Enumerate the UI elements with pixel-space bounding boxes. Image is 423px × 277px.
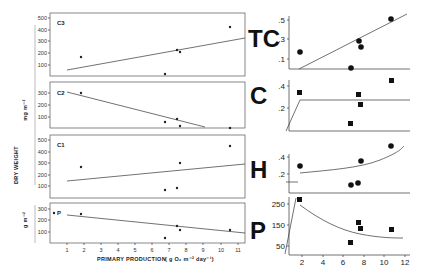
c1-tick-label: 300 bbox=[38, 160, 47, 166]
p-tick-label-right: 250 bbox=[272, 200, 286, 209]
left-tick-labels: 500 400 300 200 100 300 200 100 500 400 … bbox=[38, 15, 47, 235]
c2-point bbox=[179, 125, 181, 127]
c3-point bbox=[80, 56, 82, 58]
c3-point bbox=[229, 26, 231, 28]
h-point bbox=[297, 163, 303, 169]
p-tick-label-right: 150 bbox=[272, 221, 286, 230]
c1-tick-label: 500 bbox=[38, 137, 47, 143]
tc-point bbox=[388, 16, 394, 22]
c-point bbox=[358, 102, 363, 107]
c1-tick-label: 400 bbox=[38, 149, 47, 155]
c1-point bbox=[179, 162, 181, 164]
p-point-left bbox=[229, 229, 231, 231]
h-point bbox=[348, 182, 354, 188]
right-x-tick-label: 8 bbox=[362, 258, 367, 267]
p-point-left bbox=[176, 225, 178, 227]
x-tick-label: 10 bbox=[218, 247, 224, 253]
right-x-tick-label: 10 bbox=[380, 258, 389, 267]
c2-point bbox=[164, 121, 166, 123]
p-point-right bbox=[348, 240, 353, 245]
panel-c3-frame bbox=[50, 13, 245, 76]
p-point-left bbox=[179, 229, 181, 231]
tc-point bbox=[356, 38, 362, 44]
tc-point bbox=[297, 49, 303, 55]
h-point bbox=[355, 180, 361, 186]
right-x-tick-label: 12 bbox=[401, 258, 410, 267]
panel-c2-frame bbox=[50, 82, 245, 128]
tc-axes bbox=[289, 16, 410, 69]
p-tick-label: 200 bbox=[38, 217, 47, 223]
c3-tick-label: 100 bbox=[38, 62, 47, 68]
c2-fit-line bbox=[67, 92, 205, 127]
p-fit-curve bbox=[300, 205, 403, 238]
c-tick-label: .2 bbox=[278, 104, 285, 113]
p-point-left bbox=[53, 212, 55, 214]
c3-fit-line bbox=[67, 38, 245, 70]
c3-tick-label: 300 bbox=[38, 38, 47, 44]
y-label-g: g m⁻² bbox=[22, 212, 28, 228]
tc-fit-line bbox=[299, 14, 407, 69]
x-tick-label: 2 bbox=[82, 247, 85, 253]
p-point-left bbox=[164, 237, 166, 239]
big-label-tc: TC bbox=[248, 25, 280, 52]
p-tick-label: 300 bbox=[38, 206, 47, 212]
figure-canvas: 500 400 300 200 100 300 200 100 500 400 … bbox=[0, 0, 423, 277]
x-tick-label: 3 bbox=[99, 247, 102, 253]
c3-tick-label: 400 bbox=[38, 27, 47, 33]
c1-tick-label: 100 bbox=[38, 183, 47, 189]
p-fit-line-left bbox=[67, 215, 245, 233]
y-label-dry-weight: DRY WEIGHT bbox=[13, 146, 19, 184]
c1-point bbox=[80, 166, 82, 168]
x-tick-label: 8 bbox=[184, 247, 187, 253]
c2-tick-label: 300 bbox=[38, 90, 47, 96]
x-tick-label: 7 bbox=[167, 247, 170, 253]
c-point bbox=[348, 121, 353, 126]
c-fit-line bbox=[286, 100, 410, 131]
c2-tick-label: 100 bbox=[38, 114, 47, 120]
p-point-right bbox=[297, 197, 302, 202]
c-point bbox=[389, 78, 394, 83]
x-tick-label: 9 bbox=[201, 247, 204, 253]
p-axes-right bbox=[289, 197, 410, 255]
tc-tick-label: .3 bbox=[278, 35, 285, 44]
p-point-left bbox=[80, 213, 82, 215]
tc-tick-label: .1 bbox=[278, 55, 285, 64]
x-tick-label: 11 bbox=[235, 247, 241, 253]
x-axis-label: PRIMARY PRODUCTION bbox=[97, 256, 166, 262]
panel-label-c1: C1 bbox=[57, 142, 65, 148]
h-point bbox=[388, 143, 394, 149]
right-x-tick-label: 2 bbox=[300, 258, 305, 267]
c2-tick-label: 200 bbox=[38, 102, 47, 108]
c1-tick-label: 200 bbox=[38, 172, 47, 178]
c-point bbox=[297, 90, 302, 95]
h-tick-label: .2 bbox=[278, 170, 285, 179]
x-tick-label: 6 bbox=[150, 247, 153, 253]
left-x-tick-labels: 1 2 3 4 5 6 7 8 9 10 11 bbox=[65, 247, 240, 253]
tc-point bbox=[348, 65, 354, 71]
big-label-p: P bbox=[250, 217, 266, 244]
p-point-right bbox=[389, 227, 394, 232]
c2-point bbox=[80, 92, 82, 94]
tc-point bbox=[358, 44, 364, 50]
x-tick-label: 1 bbox=[65, 247, 68, 253]
left-points bbox=[53, 26, 231, 239]
p-point-right bbox=[358, 226, 363, 231]
tc-tick-label: .5 bbox=[278, 16, 285, 25]
c-point bbox=[356, 92, 361, 97]
c3-point bbox=[164, 73, 166, 75]
h-fit-curve bbox=[300, 146, 404, 173]
right-x-tick-label: 6 bbox=[341, 258, 346, 267]
c3-tick-label: 500 bbox=[38, 15, 47, 21]
x-axis-units: ( g O₂ m⁻² day⁻¹) bbox=[165, 256, 214, 262]
h-tick-label: .4 bbox=[278, 153, 285, 162]
panel-label-c2: C2 bbox=[57, 90, 65, 96]
p-point-right bbox=[356, 220, 361, 225]
p-tick-label: 100 bbox=[38, 229, 47, 235]
c2-point bbox=[176, 118, 178, 120]
right-chart-group bbox=[285, 14, 410, 257]
right-points bbox=[297, 16, 394, 245]
big-label-h: H bbox=[250, 156, 267, 183]
c1-point bbox=[164, 189, 166, 191]
big-label-c: C bbox=[250, 82, 267, 109]
left-chart-group bbox=[35, 13, 245, 245]
